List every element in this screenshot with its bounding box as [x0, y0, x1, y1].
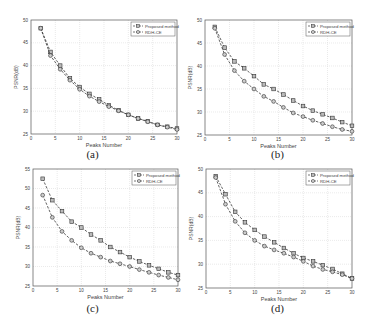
x-tick-label: 10 [77, 136, 83, 141]
caption-a: (a) [0, 148, 185, 160]
caption-d: (d) [185, 302, 370, 314]
marker-square [311, 109, 315, 113]
legend-label: RDH-CE [145, 30, 162, 35]
marker-circle [99, 255, 103, 259]
chart-panel-d: 051015202530253035404550Peaks NumberPSNR… [185, 167, 370, 334]
marker-circle [272, 248, 276, 252]
marker-square [272, 87, 276, 91]
marker-square [291, 99, 295, 103]
x-tick-label: 10 [251, 137, 257, 142]
y-tick-label: 35 [25, 245, 31, 250]
y-tick-label: 25 [197, 133, 203, 138]
marker-square [282, 93, 286, 97]
marker-circle [301, 259, 305, 263]
legend: Proposed methodRDH-CE [306, 22, 355, 36]
legend-square-icon [138, 174, 141, 177]
y-tick-label: 50 [197, 18, 203, 23]
y-axis-label: PSNR(dB) [13, 65, 19, 89]
marker-circle [117, 109, 121, 113]
chart-b: 051015202530253035404550Peaks NumberPSNR… [185, 0, 370, 167]
marker-circle [60, 230, 64, 234]
legend-label: Proposed method [145, 24, 180, 29]
marker-square [147, 264, 151, 268]
plot-area [205, 20, 352, 135]
x-tick-label: 10 [252, 290, 258, 295]
marker-square [263, 235, 267, 239]
marker-circle [41, 193, 45, 197]
marker-circle [291, 111, 295, 115]
marker-square [157, 267, 161, 271]
caption-c: (c) [0, 302, 185, 314]
marker-circle [242, 79, 246, 83]
legend-circle-icon [311, 30, 314, 33]
marker-square [340, 120, 344, 124]
legend-label: Proposed method [146, 173, 181, 178]
legend-square-icon [137, 25, 140, 28]
x-tick-label: 20 [301, 290, 307, 295]
marker-square [223, 46, 227, 50]
y-tick-label: 40 [197, 64, 203, 69]
x-tick-label: 25 [325, 290, 331, 295]
x-tick-label: 0 [32, 288, 35, 293]
marker-circle [253, 239, 257, 243]
x-tick-label: 15 [101, 136, 107, 141]
marker-circle [311, 118, 315, 122]
y-tick-label: 50 [198, 167, 204, 172]
chart-a: 051015202530253035404550Peaks NumberPSNR… [0, 0, 185, 167]
x-tick-label: 20 [300, 137, 306, 142]
legend: Proposed methodRDH-CE [306, 171, 355, 185]
marker-square [109, 245, 113, 249]
marker-circle [272, 100, 276, 104]
x-tick-label: 10 [79, 288, 85, 293]
y-tick-label: 55 [25, 167, 31, 172]
legend-label: RDH-CE [320, 30, 337, 35]
y-tick-label: 45 [23, 40, 29, 45]
marker-circle [350, 129, 354, 133]
marker-circle [128, 265, 132, 269]
marker-circle [68, 78, 72, 82]
marker-square [321, 263, 325, 267]
marker-circle [146, 120, 150, 124]
x-tick-label: 30 [349, 137, 355, 142]
marker-square [282, 246, 286, 250]
x-tick-label: 15 [103, 288, 109, 293]
marker-circle [214, 176, 218, 180]
marker-circle [107, 105, 111, 109]
legend: Proposed methodRDH-CE [132, 171, 181, 185]
marker-square [301, 104, 305, 108]
y-tick-label: 50 [25, 186, 31, 191]
x-tick-label: 15 [276, 290, 282, 295]
marker-square [128, 255, 132, 259]
marker-square [262, 83, 266, 87]
y-tick-label: 30 [198, 262, 204, 267]
marker-square [58, 64, 62, 68]
marker-circle [263, 244, 267, 248]
marker-circle [147, 270, 151, 274]
x-tick-label: 5 [228, 137, 231, 142]
y-tick-label: 45 [25, 206, 31, 211]
marker-circle [89, 251, 93, 255]
marker-circle [321, 268, 325, 272]
marker-circle [157, 273, 161, 277]
marker-circle [213, 26, 217, 30]
y-tick-label: 25 [23, 132, 29, 137]
marker-square [243, 221, 247, 225]
legend-circle-icon [311, 179, 314, 182]
marker-circle [118, 262, 122, 266]
marker-square [176, 273, 180, 277]
marker-circle [88, 94, 92, 98]
x-tick-label: 25 [325, 137, 331, 142]
marker-square [311, 260, 315, 264]
marker-square [321, 113, 325, 117]
x-axis-label: Peaks Number [87, 294, 124, 300]
marker-circle [224, 202, 228, 206]
x-tick-label: 5 [56, 288, 59, 293]
chart-panel-b: 051015202530253035404550Peaks NumberPSNR… [185, 0, 370, 167]
marker-square [350, 124, 354, 128]
marker-circle [233, 219, 237, 223]
y-tick-label: 30 [23, 109, 29, 114]
marker-circle [340, 273, 344, 277]
chart-panel-c: 05101520253025303540455055Peaks NumberPS… [0, 167, 185, 334]
marker-circle [126, 113, 130, 117]
marker-circle [292, 255, 296, 259]
